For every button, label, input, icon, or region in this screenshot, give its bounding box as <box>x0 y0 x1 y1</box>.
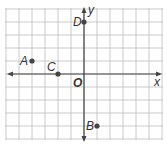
point-label: A <box>19 54 28 68</box>
point-label: B <box>86 119 94 133</box>
y-axis-label: y <box>87 3 95 17</box>
point-dot <box>94 123 99 128</box>
point-label: D <box>73 15 82 29</box>
point-b: B <box>86 119 100 133</box>
y-axis-up-arrow-icon <box>82 7 87 13</box>
point-label: C <box>47 60 56 74</box>
point-dot <box>81 19 86 24</box>
point-dot <box>29 58 34 63</box>
x-axis-label: x <box>153 75 161 89</box>
origin-label: O <box>73 76 83 90</box>
point-dot <box>55 71 60 76</box>
x-axis-left-arrow-icon <box>7 72 13 77</box>
coordinate-plane: x y O ABCD <box>0 0 167 149</box>
